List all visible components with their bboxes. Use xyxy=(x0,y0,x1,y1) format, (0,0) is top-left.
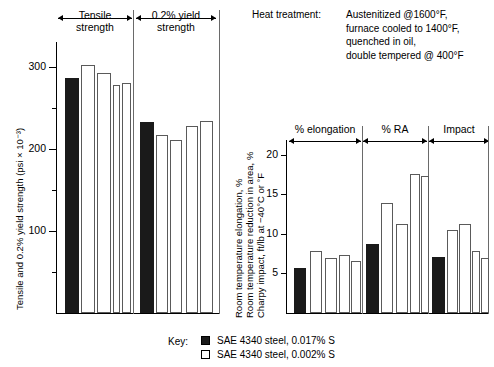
bar xyxy=(97,73,111,313)
left-chart-y-axis-label: Tensile and 0.2% yield strength (psi × 1… xyxy=(14,128,25,310)
bar xyxy=(156,135,168,313)
right-chart-group-arrow-ra xyxy=(363,137,427,146)
heat-treatment-label: Heat treatment: xyxy=(252,8,321,22)
right-chart-y-axis-label-line2: Room temperature reduction in area, % xyxy=(244,152,255,318)
legend-title: Key: xyxy=(168,335,188,349)
bar xyxy=(447,230,458,313)
left-chart-tick-label-100: 100 xyxy=(10,224,46,236)
bar xyxy=(81,65,95,313)
right-chart-group-header-ra: % RA xyxy=(363,124,427,136)
left-chart-group-separator xyxy=(133,10,134,314)
left-chart-group-arrow-yield xyxy=(136,14,216,23)
legend-item-label: SAE 4340 steel, 0.017% S xyxy=(217,335,335,346)
right-chart-y-axis xyxy=(286,140,287,314)
figure-root: Heat treatment: Austenitized @1600°F, fu… xyxy=(0,0,494,367)
right-chart-tick-20 xyxy=(281,155,287,156)
right-chart-group-header-impact: Impact xyxy=(429,124,489,136)
left-chart-minor-tick xyxy=(52,272,57,273)
heat-treatment-line: furnace cooled to 1400°F, xyxy=(346,22,464,36)
left-chart-tick-100 xyxy=(49,231,57,232)
right-chart-group-arrow-impact xyxy=(429,137,489,146)
arrow-line xyxy=(136,18,216,19)
left-chart-tick-200 xyxy=(49,149,57,150)
bar xyxy=(339,255,350,313)
arrow-head-left-icon xyxy=(58,15,63,21)
left-chart-tick-300 xyxy=(49,67,57,68)
left-chart-y-axis xyxy=(56,42,57,314)
bar xyxy=(310,251,322,313)
arrow-head-right-icon xyxy=(127,15,132,21)
right-chart-tick-label-15: 15 xyxy=(258,187,278,199)
right-chart-tick-label-10: 10 xyxy=(258,227,278,239)
bar xyxy=(122,83,131,313)
arrow-head-left-icon xyxy=(289,138,294,144)
arrow-head-right-icon xyxy=(356,138,361,144)
right-chart-tick-5 xyxy=(281,273,287,274)
bar xyxy=(396,224,408,313)
heat-treatment-line: double tempered @ 400°F xyxy=(346,49,464,63)
left-chart-tick-label-300: 300 xyxy=(10,60,46,72)
legend-swatch-open-icon xyxy=(201,350,210,359)
left-chart-right-border xyxy=(219,10,220,314)
right-chart-tick-label-5: 5 xyxy=(258,266,278,278)
legend-item-0002: SAE 4340 steel, 0.002% S xyxy=(201,348,335,362)
bar xyxy=(381,203,393,313)
bar xyxy=(366,244,379,313)
heat-treatment-lines: Austenitized @1600°F, furnace cooled to … xyxy=(346,8,464,62)
arrow-head-left-icon xyxy=(136,15,141,21)
right-chart-group-separator xyxy=(362,126,363,314)
bar xyxy=(200,121,213,313)
right-chart-tick-15 xyxy=(281,194,287,195)
bar xyxy=(170,140,182,313)
bar xyxy=(351,261,361,313)
arrow-line xyxy=(289,141,361,142)
right-chart-y-axis-label-line1: Room temperature elongation, % xyxy=(233,179,244,318)
bar xyxy=(421,176,429,313)
right-chart-tick-label-20: 20 xyxy=(258,148,278,160)
right-chart-tick-10 xyxy=(281,234,287,235)
left-chart-group-arrow-tensile xyxy=(58,14,132,23)
heat-treatment-line: quenched in oil, xyxy=(346,35,464,49)
bar xyxy=(410,174,420,313)
bar xyxy=(472,251,480,313)
heat-treatment-line: Austenitized @1600°F, xyxy=(346,8,464,22)
left-chart-minor-tick xyxy=(52,190,57,191)
bar xyxy=(65,78,79,313)
right-chart-x-axis xyxy=(286,313,489,314)
arrow-line xyxy=(363,141,427,142)
bar xyxy=(481,258,489,313)
arrow-head-right-icon xyxy=(211,15,216,21)
bar xyxy=(432,257,445,313)
bar xyxy=(325,258,337,313)
right-chart-group-arrow-elongation xyxy=(289,137,361,146)
left-chart-tick-label-200: 200 xyxy=(10,142,46,154)
right-chart-group-header-elongation: % elongation xyxy=(289,124,361,136)
arrow-head-right-icon xyxy=(422,138,427,144)
legend-item-label: SAE 4340 steel, 0.002% S xyxy=(217,349,335,360)
legend-item-0017: SAE 4340 steel, 0.017% S xyxy=(201,334,335,348)
arrow-line xyxy=(429,141,489,142)
bar xyxy=(113,85,120,313)
left-chart-x-axis xyxy=(56,313,220,314)
left-chart-minor-tick xyxy=(52,108,57,109)
bar xyxy=(140,122,154,313)
bar xyxy=(459,224,471,313)
arrow-head-left-icon xyxy=(363,138,368,144)
arrow-head-left-icon xyxy=(429,138,434,144)
bar xyxy=(186,126,198,313)
arrow-line xyxy=(58,18,132,19)
bar xyxy=(294,268,306,313)
legend-swatch-filled-icon xyxy=(201,336,210,345)
